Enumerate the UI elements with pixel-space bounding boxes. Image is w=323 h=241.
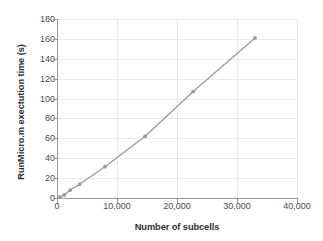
x-tick-mark: [57, 199, 58, 203]
data-point-marker: [62, 193, 66, 197]
y-tick-mark: [53, 79, 57, 80]
data-point-marker: [253, 36, 257, 40]
y-tick-label: 20: [21, 173, 55, 183]
y-tick-label: 140: [21, 54, 55, 64]
y-axis-line: [57, 19, 58, 199]
y-tick-label: 180: [21, 14, 55, 24]
x-axis-title: Number of subcells: [57, 222, 297, 232]
x-tick-mark: [177, 199, 178, 203]
data-point-marker: [143, 134, 147, 138]
x-tick-mark: [117, 199, 118, 203]
data-point-marker: [103, 165, 107, 169]
data-point-marker: [191, 90, 195, 94]
data-point-marker: [68, 188, 72, 192]
y-tick-mark: [53, 138, 57, 139]
data-series-layer: [57, 19, 297, 198]
series-markers: [58, 36, 257, 199]
y-tick-mark: [53, 158, 57, 159]
y-tick-label: 100: [21, 94, 55, 104]
y-tick-mark: [53, 19, 57, 20]
y-tick-label: 160: [21, 34, 55, 44]
data-point-marker: [78, 182, 82, 186]
gridline-vertical: [297, 19, 298, 198]
x-tick-mark: [237, 199, 238, 203]
y-tick-label: 120: [21, 74, 55, 84]
y-tick-label: 60: [21, 133, 55, 143]
x-tick-label: 40,000: [267, 201, 323, 211]
x-tick-mark: [297, 199, 298, 203]
series-line: [60, 38, 255, 197]
y-tick-mark: [53, 59, 57, 60]
chart-container: RunMicro.m exectution time (s) Number of…: [0, 0, 323, 241]
y-tick-mark: [53, 99, 57, 100]
y-tick-mark: [53, 118, 57, 119]
y-tick-mark: [53, 39, 57, 40]
y-tick-label: 40: [21, 153, 55, 163]
plot-area: [57, 19, 297, 198]
y-tick-label: 80: [21, 113, 55, 123]
y-tick-mark: [53, 178, 57, 179]
